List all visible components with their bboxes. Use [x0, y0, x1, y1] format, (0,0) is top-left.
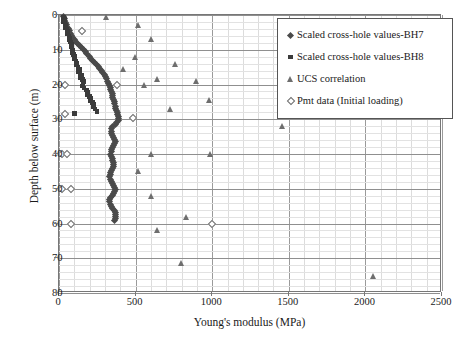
- open-triangle-icon: [207, 151, 213, 157]
- x-tick-mark: [135, 292, 136, 296]
- gridline-y-major: [59, 15, 440, 16]
- open-triangle-icon: [279, 123, 285, 129]
- open-triangle-icon: [193, 78, 199, 84]
- gridline-y-major: [59, 154, 440, 155]
- open-triangle-icon: [120, 66, 126, 72]
- legend-item[interactable]: UCS correlation: [284, 68, 446, 90]
- open-triangle-icon: [135, 22, 141, 28]
- gridline-y-minor: [59, 265, 440, 266]
- gridline-y-minor: [59, 175, 440, 176]
- x-tick-label: 500: [127, 296, 143, 307]
- gridline-y-minor: [59, 251, 440, 252]
- y-tick-mark: [54, 84, 58, 85]
- filled-square-icon: [95, 109, 100, 114]
- chart-legend: Scaled cross-hole values-BH7Scaled cross…: [277, 18, 453, 119]
- y-tick-mark: [54, 153, 58, 154]
- legend-item-label: UCS correlation: [297, 74, 366, 85]
- gridline-y-minor: [59, 272, 440, 273]
- open-triangle-icon: [103, 14, 109, 20]
- legend-item[interactable]: Pmt data (Initial loading): [284, 90, 446, 112]
- x-tick-label: 1000: [201, 296, 222, 307]
- x-tick-label: 2500: [431, 296, 452, 307]
- legend-item-label: Pmt data (Initial loading): [297, 96, 403, 107]
- gridline-y-minor: [59, 133, 440, 134]
- open-triangle-icon: [172, 61, 178, 67]
- filled-square-icon: [72, 111, 77, 116]
- gridline-y-minor: [59, 230, 440, 231]
- x-tick-label: 0: [55, 296, 60, 307]
- x-tick-mark: [441, 292, 442, 296]
- x-tick-mark: [364, 292, 365, 296]
- y-tick-mark: [54, 292, 58, 293]
- filled-diamond-icon: [284, 29, 297, 41]
- open-triangle-icon: [154, 76, 160, 82]
- gridline-y-minor: [59, 203, 440, 204]
- gridline-y-major: [59, 224, 440, 225]
- open-diamond-icon: [284, 95, 297, 107]
- open-triangle-icon: [135, 168, 141, 174]
- open-triangle-icon: [284, 73, 297, 85]
- x-tick-mark: [288, 292, 289, 296]
- open-diamond-icon: [78, 26, 86, 34]
- gridline-y-major: [59, 258, 440, 259]
- gridline-y-minor: [59, 237, 440, 238]
- legend-item[interactable]: Scaled cross-hole values-BH8: [284, 46, 446, 68]
- gridline-y-minor: [59, 279, 440, 280]
- open-triangle-icon: [148, 151, 154, 157]
- open-triangle-icon: [370, 273, 376, 279]
- open-triangle-icon: [132, 54, 138, 60]
- open-triangle-icon: [148, 193, 154, 199]
- y-tick-mark: [54, 14, 58, 15]
- legend-item-label: Scaled cross-hole values-BH7: [297, 30, 424, 41]
- gridline-y-minor: [59, 196, 440, 197]
- open-triangle-icon: [206, 97, 212, 103]
- open-triangle-icon: [154, 227, 160, 233]
- legend-item-label: Scaled cross-hole values-BH8: [297, 52, 424, 63]
- gridline-y-major: [59, 293, 440, 294]
- open-triangle-icon: [141, 82, 147, 88]
- y-tick-mark: [54, 49, 58, 50]
- x-axis-label: Young's modulus (MPa): [58, 316, 441, 328]
- open-diamond-icon: [208, 219, 216, 227]
- gridline-y-minor: [59, 286, 440, 287]
- filled-square-icon: [284, 51, 297, 63]
- y-axis-label: Depth below surface (m): [28, 26, 40, 266]
- open-triangle-icon: [178, 260, 184, 266]
- y-tick-mark: [54, 257, 58, 258]
- y-tick-mark: [54, 223, 58, 224]
- x-tick-label: 1500: [277, 296, 298, 307]
- y-tick-mark: [54, 188, 58, 189]
- open-triangle-icon: [183, 214, 189, 220]
- open-triangle-icon: [167, 106, 173, 112]
- gridline-y-minor: [59, 244, 440, 245]
- x-tick-mark: [211, 292, 212, 296]
- y-tick-mark: [54, 118, 58, 119]
- legend-item[interactable]: Scaled cross-hole values-BH7: [284, 24, 446, 46]
- x-tick-label: 2000: [354, 296, 375, 307]
- chart-figure: Young's modulus (MPa) Depth below surfac…: [0, 0, 462, 343]
- open-triangle-icon: [148, 36, 154, 42]
- open-diamond-icon: [63, 150, 71, 158]
